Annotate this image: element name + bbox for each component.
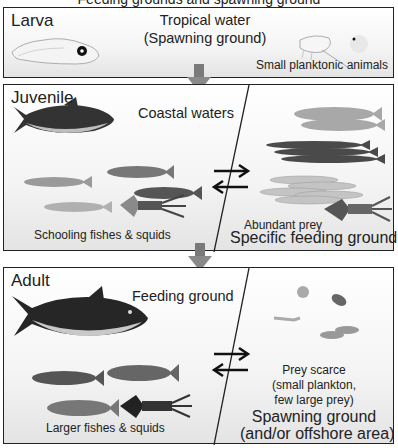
fish-egg-icon (350, 35, 368, 53)
juvenile-left-region: Coastal waters (138, 105, 234, 121)
adult-right-caption-2: (small plankton, (244, 378, 384, 392)
adult-right-region-sub: (and/or offshore area) (240, 425, 388, 443)
juvenile-left-caption: Schooling fishes & squids (34, 228, 171, 242)
copepod-icon (300, 36, 349, 68)
mackerel-icon (32, 370, 104, 386)
mackerel-icon (107, 165, 174, 179)
adult-tuna-icon (12, 286, 148, 336)
stage-label-adult: Adult (11, 271, 50, 291)
pteropod-icon (330, 292, 349, 309)
sardine-icon (44, 201, 112, 213)
adult-panel: Adult Feeding ground Larger fishes & squ… (3, 267, 394, 444)
juvenile-right-region: Specific feeding ground (230, 229, 397, 247)
sardine-icon (24, 176, 92, 188)
herring-icon (294, 107, 385, 131)
saury-icon (266, 140, 385, 164)
shrimp-icon (274, 318, 300, 320)
adult-right-caption-1: Prey scarce (244, 363, 384, 377)
mackerel-icon (107, 364, 179, 382)
mackerel-icon (134, 186, 202, 200)
adult-right-region: Spawning ground (240, 408, 388, 426)
adult-left-caption: Larger fishes & squids (46, 421, 165, 435)
anchovy-school-icon (260, 176, 363, 204)
figure-title-cut: Feeding grounds and spawning ground (0, 0, 398, 7)
mackerel-icon (47, 399, 119, 417)
squid-icon (120, 395, 192, 418)
adult-left-region: Feeding ground (132, 288, 234, 304)
small-fishes-icon (320, 326, 359, 339)
crab-larva-icon (297, 286, 309, 298)
juvenile-panel: Juvenile Coastal waters Schooling fishes… (3, 84, 394, 251)
stage-label-juvenile: Juvenile (11, 88, 73, 108)
larva-fish-icon (12, 39, 99, 64)
adult-right-caption-3: few large prey) (244, 393, 384, 407)
